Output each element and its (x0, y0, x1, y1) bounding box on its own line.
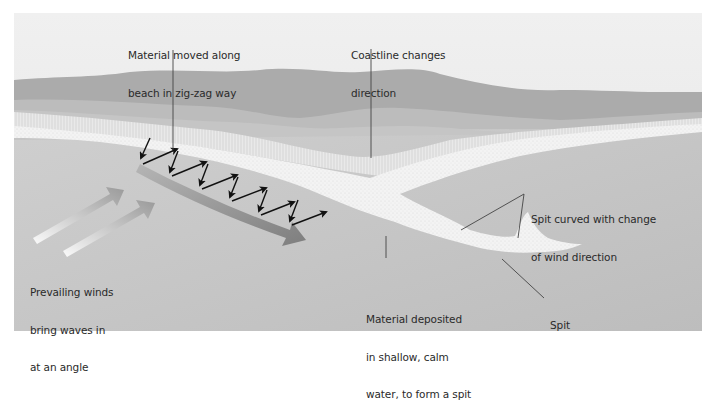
label-coastline-line2: direction (351, 87, 445, 100)
label-spit-curved: Spit curved with change of wind directio… (531, 188, 656, 288)
label-zigzag-movement: Material moved along beach in zig-zag wa… (128, 24, 240, 124)
label-deposited-line3: water, to form a spit (366, 388, 471, 401)
label-winds-line3: at an angle (30, 361, 113, 374)
label-deposited-line2: in shallow, calm (366, 351, 471, 364)
label-winds-line1: Prevailing winds (30, 286, 113, 299)
label-spit-line1: Spit (550, 319, 570, 332)
label-prevailing-winds: Prevailing winds bring waves in at an an… (30, 261, 113, 399)
label-winds-line2: bring waves in (30, 324, 113, 337)
label-deposited-line1: Material deposited (366, 313, 471, 326)
label-coastline-changes: Coastline changes direction (351, 24, 445, 124)
label-spit: Spit (550, 294, 570, 357)
label-curved-line2: of wind direction (531, 251, 656, 264)
label-curved-line1: Spit curved with change (531, 213, 656, 226)
label-zigzag-line1: Material moved along (128, 49, 240, 62)
label-zigzag-line2: beach in zig-zag way (128, 87, 240, 100)
label-coastline-line1: Coastline changes (351, 49, 445, 62)
label-material-deposited: Material deposited in shallow, calm wate… (366, 288, 471, 404)
